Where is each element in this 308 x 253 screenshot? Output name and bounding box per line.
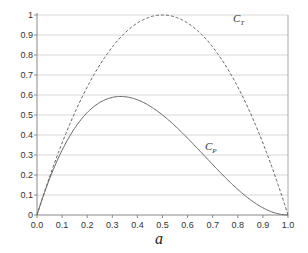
cp-label: CP: [205, 140, 217, 155]
y-tick-label: 0.6: [20, 90, 33, 100]
y-tick-label: 1: [28, 10, 33, 20]
y-tick-label: 0.4: [20, 130, 33, 140]
y-tick-label: 0: [28, 210, 33, 220]
grid-lines: [37, 15, 288, 195]
x-tick-label: 0.2: [81, 220, 94, 230]
x-tick-label: 0.0: [31, 220, 44, 230]
x-tick-label: 0.8: [232, 220, 245, 230]
y-tick-label: 0.7: [20, 70, 33, 80]
x-tick-label: 0.1: [56, 220, 69, 230]
ct-label: CT: [233, 12, 245, 27]
x-tick-label: 0.4: [131, 220, 144, 230]
x-axis-title: a: [155, 230, 163, 247]
y-tick-label: 0.9: [20, 30, 33, 40]
y-tick-label: 0.3: [20, 150, 33, 160]
y-tick-label: 0.1: [20, 190, 33, 200]
y-tick-label: 0.8: [20, 50, 33, 60]
x-tick-label: 0.9: [257, 220, 270, 230]
cp-curve: [37, 96, 288, 215]
y-tick-label: 0.5: [20, 110, 33, 120]
chart: 00.10.20.30.40.50.60.70.80.91 0.00.10.20…: [0, 0, 308, 253]
x-tick-label: 0.6: [181, 220, 194, 230]
y-tick-label: 0.2: [20, 170, 33, 180]
x-tick-label: 1.0: [282, 220, 295, 230]
x-tick-label: 0.5: [156, 220, 169, 230]
x-tick-label: 0.3: [106, 220, 119, 230]
x-axis: 0.00.10.20.30.40.50.60.70.80.91.0: [31, 215, 295, 230]
x-tick-label: 0.7: [206, 220, 219, 230]
